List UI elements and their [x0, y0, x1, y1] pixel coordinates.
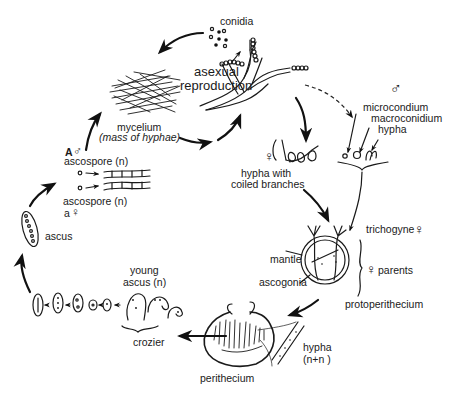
crozier-stages — [122, 294, 182, 332]
label-mantle: mantle — [270, 253, 302, 265]
coiled-hypha — [273, 140, 318, 162]
label-n-plus-n: (n+n ) — [303, 353, 331, 365]
label-hypha-nn: hypha — [303, 341, 332, 353]
label-asexual: asexual — [194, 64, 239, 79]
perithecium — [204, 302, 274, 366]
label-conidia: conidia — [220, 15, 253, 27]
arrow-to-perithecium — [290, 300, 318, 315]
trichogyne-female-symbol: ♀ — [414, 222, 425, 236]
germinating-ascospores — [78, 170, 150, 190]
conidiophore-chain-vertical — [251, 38, 258, 62]
arrow-dashed-to-male-structures — [305, 85, 352, 117]
label-ascus-n: ascus (n) — [123, 276, 166, 288]
fungal-life-cycle-diagram: conidia asexual reproduction mycelium (m… — [0, 0, 451, 395]
mycelium-mass — [110, 70, 180, 114]
label-reproduction: reproduction — [180, 78, 252, 93]
ascus-development-row — [33, 293, 120, 316]
arrow-to-protoperithecium — [304, 190, 328, 220]
arrow-to-ascospores — [30, 184, 54, 206]
label-mass-of-hyphae: (mass of hyphae) — [99, 131, 180, 143]
conidiophore-chain-right — [292, 66, 308, 70]
label-ascospore-a-prefix: a — [64, 207, 70, 219]
label-ascus: ascus — [45, 230, 72, 242]
parents-female-symbol: ♀ — [366, 262, 377, 276]
label-perithecium: perithecium — [200, 372, 254, 384]
arrow-ascospore-to-mycelium — [86, 114, 100, 150]
arrow-cycle-upward — [218, 116, 240, 140]
label-crozier: crozier — [133, 336, 165, 348]
ascospore-a-female-symbol: ♀ — [71, 205, 80, 219]
conidia-spores — [209, 27, 227, 47]
label-trichogyne: trichogyne — [366, 223, 414, 235]
label-coiled-branches: coiled branches — [231, 178, 305, 190]
arrow-mycelium-to-cycle — [180, 138, 210, 143]
label-ascospore-1: ascospore (n) — [64, 155, 128, 167]
male-symbol: ♂ — [390, 82, 402, 96]
label-protoperithecium: protoperithecium — [345, 298, 423, 310]
label-parents: parents — [378, 264, 413, 276]
female-symbol-coiled: ♀ — [264, 149, 275, 163]
arrow-to-mature-ascus — [21, 256, 30, 292]
label-hypha-male: hypha — [378, 123, 407, 135]
mature-ascus — [19, 210, 42, 248]
label-ascogonia: ascogonia — [259, 276, 307, 288]
arrow-to-coiled-hypha — [296, 98, 306, 140]
arrow-conidia-to-mycelium — [160, 33, 203, 52]
label-young: young — [130, 264, 159, 276]
